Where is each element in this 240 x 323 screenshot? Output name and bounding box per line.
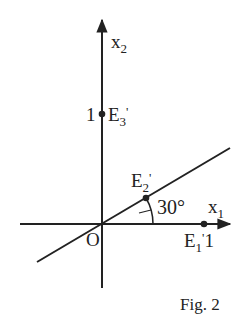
x1-axis-label: x1 [208,196,224,221]
x2-axis-label: x2 [111,31,127,56]
figure-caption: Fig. 2 [180,295,220,314]
e1-label: E1'1 [184,230,214,255]
point-e1 [201,221,208,228]
origin-label: O [86,229,100,250]
e3-label: E3' [108,104,128,129]
point-e2 [143,195,150,202]
e3-value-label: 1 [86,104,96,125]
point-e3 [99,111,106,118]
angle-label: 30° [157,196,185,218]
angle-tick [139,210,151,213]
e2-label: E2' [131,170,151,195]
coordinate-diagram: x2 x1 1 E3' E2' 30° O E1'1 Fig. 2 [0,0,240,323]
